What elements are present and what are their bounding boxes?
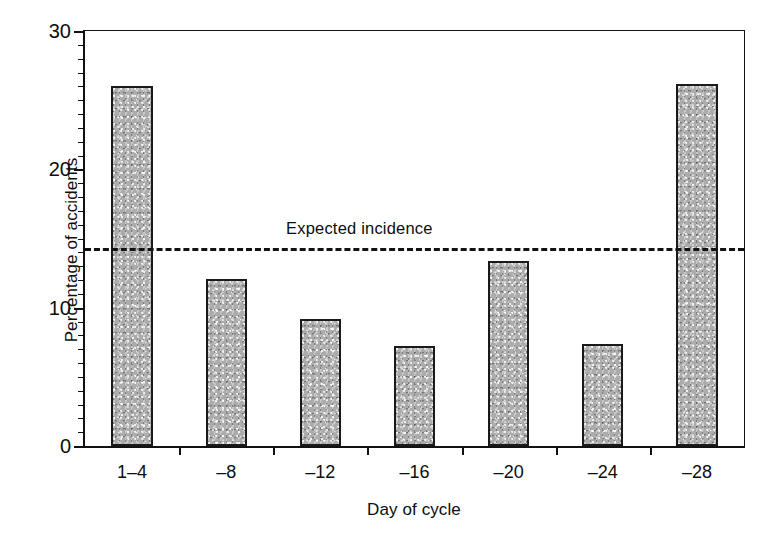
y-tick-minor (78, 294, 85, 295)
bar (582, 344, 623, 446)
y-tick-minor (78, 266, 85, 267)
x-tick-label: 1–4 (117, 462, 147, 483)
expected-incidence-label: Expected incidence (286, 219, 433, 238)
y-tick-minor (78, 100, 85, 101)
y-tick-minor (78, 405, 85, 406)
y-tick-major (74, 31, 85, 33)
y-tick-minor (78, 156, 85, 157)
y-tick-minor (78, 73, 85, 74)
x-tick (650, 446, 652, 455)
y-tick-minor (78, 432, 85, 433)
y-tick-major (74, 446, 85, 448)
x-axis-title: Day of cycle (83, 500, 745, 520)
y-tick-minor (78, 377, 85, 378)
y-tick-label: 30 (49, 20, 71, 43)
y-tick-minor (78, 183, 85, 184)
x-tick (462, 446, 464, 455)
x-tick-label: –20 (494, 462, 524, 483)
y-tick-minor (78, 363, 85, 364)
y-tick-minor (78, 391, 85, 392)
y-tick-minor (78, 59, 85, 60)
y-tick-minor (78, 197, 85, 198)
y-tick-major (74, 308, 85, 310)
y-tick-minor (78, 114, 85, 115)
x-tick-label: –28 (682, 462, 712, 483)
bar (676, 84, 717, 446)
x-tick (273, 446, 275, 455)
y-tick-minor (78, 322, 85, 323)
x-tick (367, 446, 369, 455)
y-tick-minor (78, 349, 85, 350)
y-tick-label: 20 (49, 158, 71, 181)
y-tick-minor (78, 128, 85, 129)
x-tick-label: –12 (305, 462, 335, 483)
y-tick-minor (78, 211, 85, 212)
bar-chart-figure: Percentage of accidents 0 10 20 30 Expec… (0, 0, 762, 534)
bar (300, 319, 341, 446)
y-axis-title: Percentage of accidents (62, 100, 82, 400)
x-tick-label: –16 (399, 462, 429, 483)
bar (111, 86, 152, 446)
y-tick-minor (78, 252, 85, 253)
y-tick-label: 10 (49, 296, 71, 319)
y-tick-minor (78, 335, 85, 336)
x-tick (179, 446, 181, 455)
bar (206, 279, 247, 446)
y-tick-minor (78, 142, 85, 143)
x-tick-label: –8 (216, 462, 236, 483)
y-tick-minor (78, 280, 85, 281)
x-tick (556, 446, 558, 455)
y-tick-minor (78, 45, 85, 46)
y-tick-minor (78, 225, 85, 226)
bar (394, 346, 435, 446)
plot-area: 0 10 20 30 Expected incidence 1–4–8–12–1… (83, 30, 745, 448)
x-tick-label: –24 (588, 462, 618, 483)
bar (488, 261, 529, 446)
y-tick-minor (78, 418, 85, 419)
y-tick-minor (78, 239, 85, 240)
y-tick-major (74, 169, 85, 171)
y-tick-minor (78, 86, 85, 87)
expected-incidence-line (85, 248, 744, 251)
y-tick-label: 0 (60, 435, 71, 458)
